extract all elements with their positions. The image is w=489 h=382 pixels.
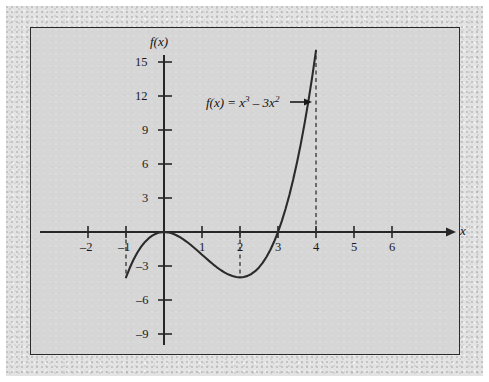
y-tick-label-6: 6 bbox=[142, 158, 148, 171]
x-tick-label-3: 3 bbox=[275, 241, 281, 254]
y-tick-label-12: 12 bbox=[135, 90, 148, 103]
y-tick-label--9: –9 bbox=[136, 328, 149, 341]
figure-page: f(x) x 15 12 9 6 3 –3 –6 –9 –2 –1 1 2 3 … bbox=[0, 0, 489, 382]
x-axis-label: x bbox=[460, 224, 466, 237]
annotation-prefix: f(x) = x bbox=[206, 95, 245, 110]
x-tick-label-1: 1 bbox=[199, 241, 205, 254]
y-tick-label-3: 3 bbox=[142, 192, 148, 205]
x-tick-label-4: 4 bbox=[313, 241, 319, 254]
y-tick-label-15: 15 bbox=[135, 56, 148, 69]
y-tick-label--3: –3 bbox=[136, 260, 149, 273]
y-tick-label-9: 9 bbox=[142, 124, 148, 137]
x-tick-label-6: 6 bbox=[389, 241, 395, 254]
y-axis-label: f(x) bbox=[150, 35, 168, 48]
annotation-exponent-2: 2 bbox=[275, 94, 280, 104]
plot-panel bbox=[30, 27, 460, 355]
x-tick-label-2: 2 bbox=[237, 241, 243, 254]
x-tick-label--2: –2 bbox=[80, 241, 93, 254]
x-tick-label--1: –1 bbox=[118, 241, 131, 254]
x-tick-label-5: 5 bbox=[351, 241, 357, 254]
y-tick-label--6: –6 bbox=[136, 294, 149, 307]
function-annotation: f(x) = x3 – 3x2 bbox=[206, 96, 279, 109]
annotation-middle: – 3x bbox=[250, 95, 275, 110]
